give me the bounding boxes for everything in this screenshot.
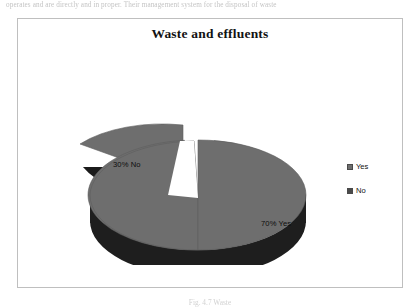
pie-data-label-no: 30% No [113,160,141,169]
legend-item-yes[interactable]: Yes [347,159,393,174]
scanned-text-fragment-top: operates and are directly and in proper.… [6,0,414,11]
legend-label-yes: Yes [356,162,368,171]
legend-swatch-no-icon [347,188,353,194]
legend-item-no[interactable]: No [347,183,393,198]
chart-frame: Waste and effluents [17,18,403,288]
scanned-caption-fragment-bottom: Fig. 4.7 Waste [0,297,420,308]
chart-title: Waste and effluents [18,26,402,42]
chart-legend: Yes No [347,159,393,207]
pie-plot-area: 30% No 70% Yes [18,49,348,285]
pie-data-label-yes: 70% Yes [261,219,291,228]
pie-chart-graphic [18,49,348,285]
legend-swatch-yes-icon [347,164,353,170]
legend-label-no: No [356,186,366,195]
